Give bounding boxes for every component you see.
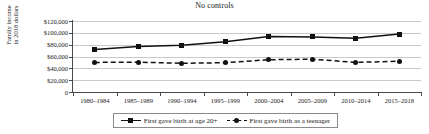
y-axis-tick-label: 0 bbox=[20, 89, 68, 96]
legend-item-age-20-plus[interactable]: First gave birth at age 20+ bbox=[121, 117, 218, 125]
x-axis-tick-label: 1995–1999 bbox=[203, 97, 247, 105]
x-axis-tick-mark bbox=[291, 93, 292, 96]
x-axis-tick-mark bbox=[334, 93, 335, 96]
plot-area bbox=[73, 21, 421, 92]
x-axis-tick-label: 1985–1989 bbox=[116, 97, 160, 105]
data-point bbox=[310, 57, 315, 62]
series-lines bbox=[73, 21, 421, 92]
data-point bbox=[397, 59, 402, 64]
x-axis-tick-mark bbox=[247, 93, 248, 96]
legend-item-teenager[interactable]: First gave birth as a teenager bbox=[227, 117, 331, 125]
x-axis-tick-label: 2000–2004 bbox=[247, 97, 291, 105]
chart-container: No controls Family income in 2018 dollar… bbox=[0, 0, 429, 134]
data-point bbox=[179, 43, 184, 48]
chart-legend: First gave birth at age 20+ First gave b… bbox=[113, 113, 338, 128]
data-point bbox=[92, 47, 97, 52]
x-axis-tick-mark bbox=[204, 93, 205, 96]
data-point bbox=[136, 44, 141, 49]
legend-label-age-20-plus: First gave birth at age 20+ bbox=[144, 117, 218, 125]
data-point bbox=[266, 34, 271, 39]
x-axis-tick-label: 2015–2018 bbox=[377, 97, 421, 105]
y-axis-tick-label: $40,000 bbox=[20, 65, 68, 72]
y-axis-tick-label: $20,000 bbox=[20, 77, 68, 84]
legend-label-teenager: First gave birth as a teenager bbox=[250, 117, 331, 125]
x-axis-tick-mark bbox=[73, 93, 74, 96]
x-axis-tick-label: 1980–1984 bbox=[73, 97, 117, 105]
y-axis-tick-label: $120,000 bbox=[20, 18, 68, 25]
data-point bbox=[310, 34, 315, 39]
data-point bbox=[223, 60, 228, 65]
x-axis-tick-label: 1990–1994 bbox=[160, 97, 204, 105]
x-axis-tick-mark bbox=[421, 93, 422, 96]
chart-title: No controls bbox=[0, 1, 429, 10]
data-point bbox=[397, 32, 402, 37]
y-axis-label-line2: in 2018 dollars bbox=[12, 0, 19, 63]
y-axis-label: Family income in 2018 dollars bbox=[5, 0, 19, 63]
legend-marker-square-icon bbox=[121, 117, 141, 124]
data-point bbox=[353, 36, 358, 41]
data-point bbox=[223, 39, 228, 44]
data-point bbox=[136, 60, 141, 65]
legend-marker-circle-icon bbox=[227, 117, 247, 124]
y-axis-tick-label: $100,000 bbox=[20, 29, 68, 36]
x-axis-tick-mark bbox=[378, 93, 379, 96]
x-axis-tick-label: 2010–2014 bbox=[334, 97, 378, 105]
x-axis-tick-label: 2005–2009 bbox=[290, 97, 334, 105]
y-axis-tick-label: $60,000 bbox=[20, 53, 68, 60]
x-axis-tick-mark bbox=[117, 93, 118, 96]
y-axis-tick-label: $80,000 bbox=[20, 41, 68, 48]
x-axis-tick-mark bbox=[160, 93, 161, 96]
y-axis-label-line1: Family income bbox=[5, 0, 12, 63]
